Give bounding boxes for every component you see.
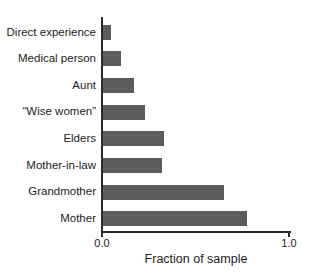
bar-row: Mother-in-law bbox=[0, 152, 290, 179]
bar bbox=[102, 51, 121, 66]
category-label: Grandmother bbox=[0, 186, 102, 198]
bar-row: Medical person bbox=[0, 46, 290, 73]
category-label: Mother-in-law bbox=[0, 160, 102, 172]
category-label: “Wise women” bbox=[0, 106, 102, 118]
category-label: Aunt bbox=[0, 80, 102, 92]
bar-track bbox=[102, 72, 290, 99]
bar-rows: Direct experienceMedical personAunt“Wise… bbox=[0, 19, 290, 232]
y-axis-line bbox=[101, 17, 103, 232]
bar-row: Mother bbox=[0, 205, 290, 232]
bar bbox=[102, 25, 111, 40]
x-axis-title: Fraction of sample bbox=[102, 253, 290, 267]
bar-row: Direct experience bbox=[0, 19, 290, 46]
bar bbox=[102, 131, 164, 146]
x-axis-line bbox=[101, 231, 291, 233]
bar-row: Grandmother bbox=[0, 179, 290, 206]
bar-track bbox=[102, 126, 290, 153]
bar bbox=[102, 105, 145, 120]
bar-track bbox=[102, 99, 290, 126]
bar-track bbox=[102, 46, 290, 73]
x-tick-label-0: 0.0 bbox=[89, 238, 115, 249]
bar-row: Aunt bbox=[0, 72, 290, 99]
bar-row: “Wise women” bbox=[0, 99, 290, 126]
bar bbox=[102, 211, 247, 226]
bar-chart: Direct experienceMedical personAunt“Wise… bbox=[0, 0, 310, 277]
bar-track bbox=[102, 152, 290, 179]
category-label: Mother bbox=[0, 213, 102, 225]
x-tick-label-1: 1.0 bbox=[276, 238, 302, 249]
bar bbox=[102, 185, 224, 200]
bar-track bbox=[102, 205, 290, 232]
category-label: Elders bbox=[0, 133, 102, 145]
bar-track bbox=[102, 19, 290, 46]
bar bbox=[102, 78, 134, 93]
bar bbox=[102, 158, 162, 173]
bar-row: Elders bbox=[0, 126, 290, 153]
category-label: Medical person bbox=[0, 53, 102, 65]
category-label: Direct experience bbox=[0, 27, 102, 39]
bar-track bbox=[102, 179, 290, 206]
